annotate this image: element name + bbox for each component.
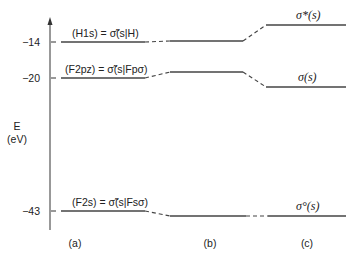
connectors-a-b bbox=[145, 41, 170, 216]
axis-arrow-icon bbox=[48, 17, 53, 25]
column-label-b: (b) bbox=[195, 237, 225, 249]
level-label-h1s: (H1s) = σ̃(s|H) bbox=[72, 28, 139, 39]
column-label-a: (a) bbox=[60, 237, 90, 249]
level-label-f2pz: (F2pz) = σ̃(s|Fpσ) bbox=[65, 64, 148, 75]
levels-column-b bbox=[170, 41, 246, 216]
axis-title-unit: (eV) bbox=[2, 133, 32, 146]
level-label-sigma: σ(s) bbox=[298, 71, 317, 83]
level-label-f2s: (F2s) = σ̃(s|Fsσ) bbox=[72, 197, 148, 208]
tick-label-minus-14: −14 bbox=[10, 37, 40, 48]
tick-label-minus-43: −43 bbox=[10, 206, 40, 217]
level-label-sigma-star: σ*(s) bbox=[296, 9, 321, 21]
axis-title: E (eV) bbox=[2, 120, 32, 146]
connectors-b-c bbox=[243, 25, 268, 216]
energy-axis bbox=[48, 17, 57, 230]
energy-diagram-lines bbox=[0, 0, 357, 259]
tick-label-minus-20: −20 bbox=[10, 73, 40, 84]
levels-column-c bbox=[266, 25, 346, 216]
column-label-c: (c) bbox=[292, 237, 322, 249]
axis-title-e: E bbox=[2, 120, 32, 133]
level-label-sigma-nonbonding: σ°(s) bbox=[296, 200, 319, 212]
